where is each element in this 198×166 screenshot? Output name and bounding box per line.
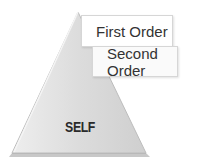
first-order-label: First Order — [81, 15, 173, 47]
second-order-label: Second Order — [92, 46, 178, 77]
self-label: SELF — [64, 118, 97, 135]
first-order-text: First Order — [96, 23, 168, 40]
second-order-text: Second Order — [107, 45, 177, 79]
